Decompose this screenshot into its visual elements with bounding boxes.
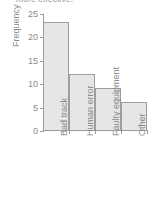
x-tick-mark xyxy=(69,130,70,134)
y-tick-label: 20 xyxy=(28,33,38,42)
x-tick-mark xyxy=(121,130,122,134)
x-axis-label: Faulty equipment xyxy=(112,67,121,136)
x-tick-mark xyxy=(95,130,96,134)
y-tick-label: 15 xyxy=(28,56,38,65)
y-tick-label: 25 xyxy=(28,10,38,19)
x-tick-mark xyxy=(147,130,148,134)
y-tick-mark xyxy=(40,14,44,15)
y-tick-label: 0 xyxy=(33,127,38,136)
y-axis-title: Frequency xyxy=(12,4,21,47)
chart-figure: more effective. Frequency 0510152025 Bad… xyxy=(0,0,155,203)
x-axis-label: Human error xyxy=(86,85,95,136)
x-axis-label: Other xyxy=(138,113,147,136)
x-axis-label: Bad track xyxy=(60,98,69,136)
y-tick-label: 5 xyxy=(33,103,38,112)
y-tick-mark xyxy=(40,131,44,132)
y-tick-label: 10 xyxy=(28,80,38,89)
figure-caption-clipped: more effective. xyxy=(16,0,146,4)
